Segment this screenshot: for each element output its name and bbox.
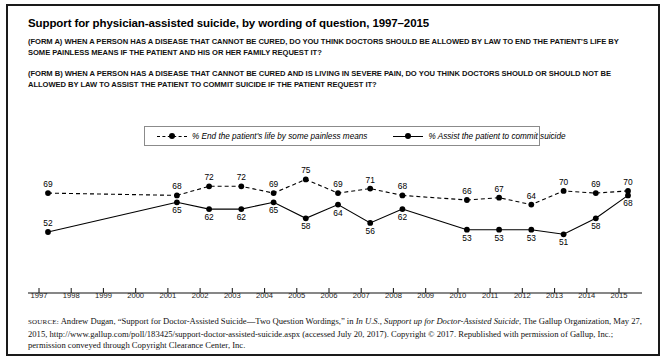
data-point-label: 65	[172, 205, 182, 215]
data-point-label: 72	[204, 172, 214, 182]
x-axis-tick-label: 2005	[281, 291, 313, 300]
data-point	[45, 190, 51, 196]
data-point	[593, 190, 599, 196]
data-point	[238, 183, 244, 189]
data-point-label: 67	[494, 184, 504, 194]
data-point-label: 72	[237, 172, 247, 182]
data-point-label: 58	[301, 221, 311, 231]
x-axis-tick-label: 2003	[216, 291, 248, 300]
data-point	[206, 183, 212, 189]
source-note: Source: Andrew Dugan, “Support for Docto…	[28, 316, 646, 352]
data-point-label: 53	[527, 233, 537, 243]
data-point-label: 70	[559, 177, 569, 187]
data-point-label: 53	[494, 233, 504, 243]
x-axis: 1997199819992000200120022003200420052006…	[28, 282, 642, 308]
data-point-label: 64	[527, 191, 537, 201]
data-point-label: 69	[269, 179, 279, 189]
x-axis-tick-label: 2009	[410, 291, 442, 300]
x-axis-tick-label: 2010	[442, 291, 474, 300]
series-line-b	[467, 195, 628, 234]
chart-legend: % End the patient's life by some painles…	[144, 126, 540, 146]
figure-frame: Support for physician-assisted suicide, …	[6, 4, 660, 356]
source-text-a: Andrew Dugan, “Support for Doctor-Assist…	[59, 316, 356, 326]
x-axis-tick-label: 2006	[313, 291, 345, 300]
data-point-label: 52	[43, 218, 53, 228]
data-point-label: 69	[591, 179, 601, 189]
data-point-label: 75	[301, 165, 311, 175]
data-point-label: 66	[462, 186, 472, 196]
source-label: Source:	[28, 318, 59, 326]
data-point	[496, 195, 502, 201]
x-axis-tick-label: 2012	[506, 291, 538, 300]
x-axis-tick-label: 2001	[152, 291, 184, 300]
question-form-b: (FORM B) WHEN A PERSON HAS A DISEASE THA…	[28, 68, 642, 90]
data-point	[367, 186, 373, 192]
data-point-label: 69	[43, 179, 53, 189]
data-point-label: 51	[559, 237, 569, 247]
series-gap-link	[48, 193, 177, 195]
data-point-label: 62	[237, 212, 247, 222]
x-axis-tick-label: 2004	[249, 291, 281, 300]
page-title: Support for physician-assisted suicide, …	[28, 17, 429, 29]
data-point	[45, 229, 51, 235]
data-point-label: 68	[623, 198, 633, 208]
dashed-line-marker-icon	[157, 132, 187, 141]
solid-line-marker-icon	[393, 132, 423, 141]
x-axis-tick-label: 2008	[377, 291, 409, 300]
x-axis-tick-label: 1997	[23, 291, 55, 300]
x-axis-tick-label: 2014	[571, 291, 603, 300]
data-point	[464, 197, 470, 203]
chart-canvas: 6968727269756971686667647069705265626265…	[28, 154, 642, 294]
x-axis-tick-label: 2000	[120, 291, 152, 300]
data-point-label: 64	[333, 208, 343, 218]
line-chart-plot: 6968727269756971686667647069705265626265…	[28, 154, 642, 294]
data-point	[528, 202, 534, 208]
data-point-label: 53	[462, 233, 472, 243]
x-axis-tick-label: 2002	[184, 291, 216, 300]
legend-item-series-a[interactable]: % End the patient's life by some painles…	[157, 132, 367, 141]
x-axis-tick-label: 2015	[603, 291, 635, 300]
source-publication-title: In U.S., Support up for Doctor-Assisted …	[356, 316, 519, 326]
data-point-label: 62	[204, 212, 214, 222]
x-axis-tick-label: 1999	[87, 291, 119, 300]
legend-label-series-b: % Assist the patient to commit suicide	[428, 132, 565, 141]
data-point-label: 69	[333, 179, 343, 189]
x-axis-tick-label: 2011	[474, 291, 506, 300]
question-form-a: (FORM A) WHEN A PERSON HAS A DISEASE THA…	[28, 36, 642, 58]
data-point-label: 68	[398, 181, 408, 191]
data-point-label: 62	[398, 212, 408, 222]
data-point-label: 65	[269, 205, 279, 215]
series-line-a	[467, 191, 628, 205]
data-point-label: 71	[366, 175, 376, 185]
legend-label-series-a: % End the patient's life by some painles…	[192, 132, 367, 141]
data-point-label: 56	[366, 226, 376, 236]
data-point	[400, 193, 406, 199]
series-gap-link	[48, 202, 177, 232]
data-point-label: 70	[623, 177, 633, 187]
data-point-label: 68	[172, 181, 182, 191]
series-gap-link	[402, 209, 467, 230]
data-point-label: 58	[591, 221, 601, 231]
data-point	[335, 190, 341, 196]
legend-item-series-b[interactable]: % Assist the patient to commit suicide	[393, 132, 565, 141]
series-gap-link	[402, 195, 467, 200]
x-axis-tick-label: 2007	[345, 291, 377, 300]
x-axis-tick-label: 2013	[539, 291, 571, 300]
data-point	[174, 193, 180, 199]
data-point	[303, 177, 309, 183]
data-point	[271, 190, 277, 196]
data-point	[561, 188, 567, 194]
x-axis-tick-label: 1998	[55, 291, 87, 300]
